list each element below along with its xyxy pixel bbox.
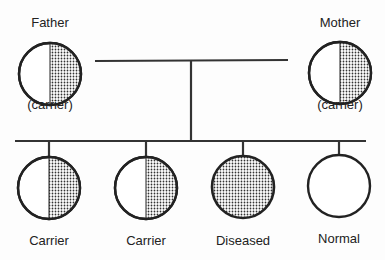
child-label: Carrier (29, 233, 69, 248)
mother-label: Mother (320, 15, 361, 30)
mother-status: (carrier) (317, 97, 363, 112)
pedigree-diagram: Father (carrier) Mother (carrier) Carrie… (0, 0, 385, 260)
diseased-symbol (212, 156, 274, 218)
father-node: Father (carrier) (19, 15, 81, 112)
marriage-line (95, 60, 288, 61)
child-node: Carrier (115, 157, 177, 248)
child-label: Carrier (126, 233, 166, 248)
child-node: Carrier (18, 157, 80, 248)
mother-node: Mother (carrier) (309, 15, 371, 112)
child-node: Normal (308, 155, 370, 246)
father-status: (carrier) (27, 97, 73, 112)
child-node: Diseased (212, 156, 274, 248)
child-label: Normal (318, 231, 360, 246)
normal-symbol (308, 155, 370, 217)
father-label: Father (31, 15, 69, 30)
child-label: Diseased (216, 233, 270, 248)
